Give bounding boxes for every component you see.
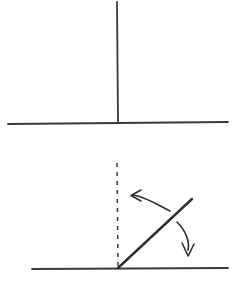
inclined-ray [118,199,192,268]
clockwise-arrow [177,222,194,256]
counterclockwise-arrow [131,190,170,211]
diagram-root [0,0,244,289]
hand-drawn-rotation-diagram [0,0,244,289]
ground-line-bottom [32,268,228,269]
bottom-panel [32,163,228,269]
counterclockwise-arrow-shaft [133,195,170,211]
vertical-line [117,2,118,123]
top-panel [8,2,228,124]
reference-dashed-vertical [117,163,118,266]
